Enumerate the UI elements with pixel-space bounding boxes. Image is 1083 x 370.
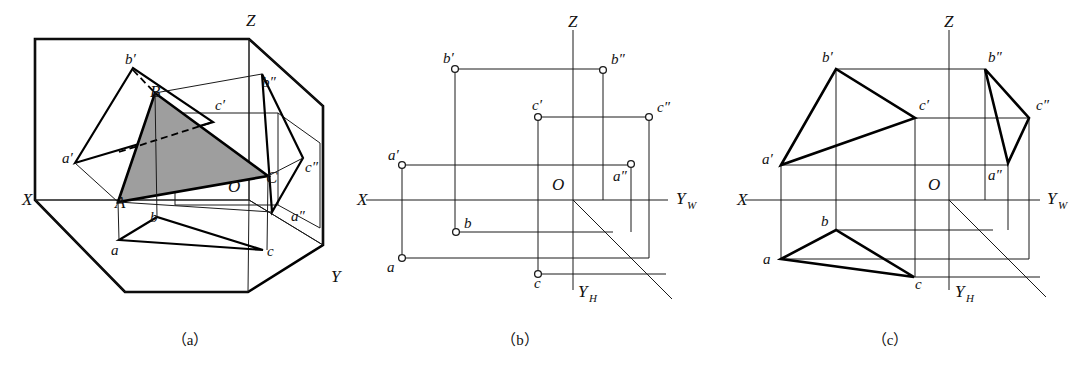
figure-canvas: X Y Z O A B C a′ b′ c′ a″ b″ c″ a b c （a… xyxy=(0,0,1083,370)
axis-label-z-c: Z xyxy=(944,12,954,31)
panel-caption-c: （c） xyxy=(872,332,909,348)
axis-label-yh-sub-b: H xyxy=(588,292,598,304)
point-label-a-dprime-a: a″ xyxy=(291,208,306,224)
point-label-a-prime-b: a′ xyxy=(388,147,400,163)
point-marker-b-prime-b xyxy=(452,66,459,73)
axis-label-yh-b: Y H xyxy=(578,282,598,304)
point-marker-a-dprime-b xyxy=(628,161,635,168)
point-label-c-dprime-c: c″ xyxy=(1036,97,1050,113)
axis-label-z-b: Z xyxy=(568,12,578,31)
projection-v-triangle-c xyxy=(781,69,915,165)
point-label-a-prime-c: a′ xyxy=(762,151,774,167)
axis-label-yh-sub-c: H xyxy=(965,292,975,304)
axis-label-yw-base-b: Y xyxy=(676,189,687,208)
point-label-b-b: b xyxy=(464,215,472,231)
axis-label-x-b: X xyxy=(356,190,368,209)
point-label-b-a: b xyxy=(150,209,158,225)
point-label-c-prime-a: c′ xyxy=(215,97,226,113)
panel-caption-b: （b） xyxy=(501,332,539,348)
axis-label-x-c: X xyxy=(736,190,748,209)
panel-c: X Z Y W Y H O a′ b′ c′ a″ b″ c″ a b c （c… xyxy=(736,12,1068,348)
axis-label-yw-base-c: Y xyxy=(1047,189,1058,208)
axis-label-yw-c: Y W xyxy=(1047,189,1068,211)
point-label-B: B xyxy=(150,82,161,101)
projection-h-triangle-a xyxy=(119,217,263,250)
point-marker-b-dprime-b xyxy=(600,67,607,74)
point-label-b-dprime-a: b″ xyxy=(262,74,277,90)
origin-label-c: O xyxy=(928,175,940,194)
axis-label-yw-sub-c: W xyxy=(1058,199,1068,211)
point-label-c-dprime-a: c″ xyxy=(305,159,319,175)
labels-panel-b: X Z Y W Y H O a′ b′ c′ a″ b″ c″ a b c xyxy=(356,12,697,304)
point-label-a-c: a xyxy=(763,251,771,267)
axis-label-z-a: Z xyxy=(246,11,256,30)
axis-label-yw-b: Y W xyxy=(676,189,697,211)
point-label-b-prime-b: b′ xyxy=(443,50,455,66)
point-label-c-prime-c: c′ xyxy=(919,97,930,113)
point-label-a-a: a xyxy=(111,242,119,258)
point-label-c-c: c xyxy=(915,276,922,292)
point-label-c-prime-b: c′ xyxy=(532,97,543,113)
point-label-a-dprime-b: a″ xyxy=(613,168,628,184)
point-label-b-prime-a: b′ xyxy=(125,51,137,67)
axis-label-yh-base-c: Y xyxy=(955,282,966,301)
point-label-b-prime-c: b′ xyxy=(822,49,834,65)
axes-c xyxy=(745,30,1046,297)
origin-label-a: O xyxy=(228,177,240,196)
point-marker-c-dprime-b xyxy=(646,114,653,121)
point-label-A: A xyxy=(114,193,126,212)
point-marker-a-b xyxy=(399,255,406,262)
figure-orthographic-projection-triangle: X Y Z O A B C a′ b′ c′ a″ b″ c″ a b c （a… xyxy=(0,0,1083,370)
origin-label-b: O xyxy=(552,175,564,194)
axis-label-yh-c: Y H xyxy=(955,282,975,304)
point-marker-a-prime-b xyxy=(399,162,406,169)
point-marker-c-prime-b xyxy=(535,114,542,121)
point-label-c-b: c xyxy=(534,275,541,291)
axis-label-y-a: Y xyxy=(331,267,342,286)
point-label-c-dprime-b: c″ xyxy=(657,99,671,115)
point-label-C: C xyxy=(266,168,278,187)
panel-a: X Y Z O A B C a′ b′ c′ a″ b″ c″ a b c （a… xyxy=(21,11,342,348)
axis-label-x-a: X xyxy=(21,190,33,209)
point-label-a-b: a xyxy=(387,259,395,275)
point-label-b-dprime-c: b″ xyxy=(988,49,1003,65)
point-label-a-prime-a: a′ xyxy=(62,150,74,166)
point-label-b-c: b xyxy=(821,213,829,229)
point-label-b-dprime-b: b″ xyxy=(611,51,626,67)
projection-h-triangle-c xyxy=(781,230,914,277)
projection-w-triangle-c xyxy=(985,69,1029,163)
panel-b: X Z Y W Y H O a′ b′ c′ a″ b″ c″ a b c （b… xyxy=(356,12,697,348)
point-label-c-a: c xyxy=(267,243,274,259)
axis-label-yw-sub-b: W xyxy=(687,199,697,211)
panel-caption-a: （a） xyxy=(172,332,209,348)
point-label-a-dprime-c: a″ xyxy=(988,167,1003,183)
axis-label-yh-base-b: Y xyxy=(578,282,589,301)
point-marker-b-b xyxy=(453,229,460,236)
